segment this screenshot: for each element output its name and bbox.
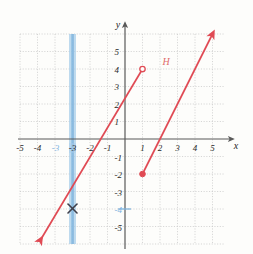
y-tick-label: -2	[115, 170, 123, 180]
y-tick-label: 4	[115, 65, 120, 75]
x-tick-label: 3	[174, 143, 180, 153]
x-tick-label: 5	[210, 143, 215, 153]
filled-dot-endpoint	[140, 171, 146, 177]
x-tick-label: 1	[140, 143, 145, 153]
x-tick-label-neg3: -3	[69, 143, 77, 153]
open-circle-endpoint	[140, 66, 145, 71]
y-tick-label: -5	[115, 223, 123, 233]
x-tick-label: 2	[158, 143, 163, 153]
figure-background	[0, 0, 253, 254]
y-tick-label: -3	[115, 188, 123, 198]
x-tick-label: -2	[86, 143, 94, 153]
x-tick-label: -1	[104, 143, 112, 153]
y-tick-label: -1	[115, 153, 123, 163]
coordinate-plane-svg: -5 -4 -3 -2 -1 1 2 3 4 5 -3 -3 5 4 3 2 1…	[0, 0, 253, 254]
y-tick-label: 1	[115, 117, 120, 127]
curve-label-h: H	[161, 56, 170, 67]
y-tick-label: 3	[114, 82, 120, 92]
y-tick-label: 5	[115, 47, 120, 57]
x-tick-label: -5	[16, 143, 24, 153]
x-tick-label: -4	[34, 143, 42, 153]
y-tick-label-minus-4: -4	[115, 205, 123, 215]
graph-figure: -5 -4 -3 -2 -1 1 2 3 4 5 -3 -3 5 4 3 2 1…	[0, 0, 253, 254]
y-tick-label: 2	[115, 100, 120, 110]
x-axis-label: x	[233, 140, 239, 151]
y-axis-label: y	[115, 19, 121, 30]
x-tick-label: 4	[193, 143, 198, 153]
